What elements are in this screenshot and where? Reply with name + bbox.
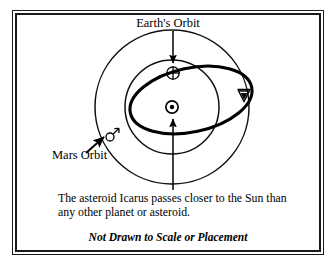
earth-orbit-title-label: Earth's Orbit (0, 16, 336, 31)
mars-icon (106, 128, 119, 141)
mars-orbit-label: Mars Orbit (52, 148, 107, 163)
earth-icon (166, 66, 180, 80)
scale-disclaimer-note: Not Drawn to Scale or Placement (0, 231, 336, 245)
orbit-diagram-figure: Earth's Orbit Mars Orbit The asteroid Ic… (0, 0, 336, 265)
diagram-caption: The asteroid Icarus passes closer to the… (58, 192, 288, 220)
sun-icon (166, 101, 178, 113)
orbit-artwork (0, 0, 336, 265)
